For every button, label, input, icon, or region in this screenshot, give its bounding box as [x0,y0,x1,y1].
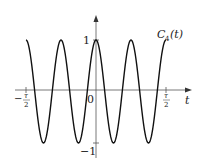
x-tick-right-two: 2 [164,101,168,109]
x-tick-right-tau: τ [164,92,168,100]
y-label-neg-one: −1 [80,145,96,158]
x-tick-left-tau: τ [24,92,28,100]
x-axis-arrow-icon [185,88,192,93]
origin-label: 0 [87,93,94,106]
x-axis-label: t [185,94,190,107]
plot: 1 −1 0 t − τ 2 τ 2 C 4 (t) [0,0,201,165]
curve-label-arg: (t) [170,28,183,41]
y-axis-arrow-icon [94,15,99,22]
x-tick-left-two: 2 [24,101,28,109]
y-label-one: 1 [83,34,90,47]
curve-label: C 4 (t) [157,28,183,43]
x-tick-left-minus: − [14,93,22,104]
